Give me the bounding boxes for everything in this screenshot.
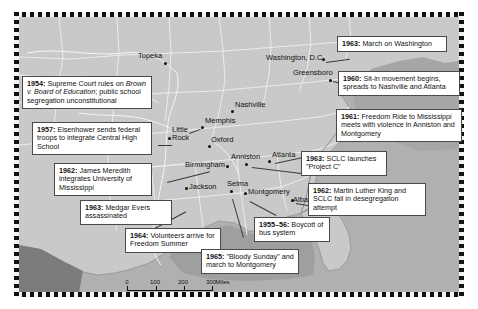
scale-miles-200: 200 [178, 279, 188, 286]
city-dot [231, 110, 234, 113]
callout-march-on-washington-1963: 1963: March on Washington [337, 36, 447, 52]
city-dot [201, 126, 204, 129]
callout-james-meredith-1962: 1962: James Meredith integrates Universi… [54, 163, 152, 196]
city-label: Selma [227, 180, 248, 189]
callout-text: March on Washington [360, 39, 432, 48]
callout-project-c-1963: 1963: SCLC launches "Project C" [301, 151, 387, 176]
callout-bus-boycott-1955-56: 1955–56: Boycott of bus system [254, 217, 330, 242]
city-dot [329, 79, 332, 82]
scale-bar: 0 100 200 300 Miles 0 100 200 300 Kilome… [127, 279, 213, 292]
city-label: Topeka [138, 52, 162, 61]
scale-miles-0: 0 [125, 279, 128, 286]
city-label: Nashville [235, 101, 265, 110]
city-label: Greensboro [293, 69, 333, 78]
callout-freedom-ride-1961: 1961: Freedom Ride to Mississippi meets … [336, 109, 462, 142]
city-dot [244, 192, 247, 195]
city-label: Oxford [211, 136, 234, 145]
city-label: Birmingham [185, 161, 225, 170]
scale-tick [156, 286, 157, 290]
scale-tick [184, 286, 185, 290]
callout-bloody-sunday-1965: 1965: "Bloody Sunday" and march to Montg… [201, 249, 299, 274]
city-label: Anniston [231, 153, 260, 162]
scale-miles-300: 300 [206, 279, 216, 286]
callout-medgar-evers-1963: 1963: Medgar Evers assassinated [80, 200, 172, 225]
city-dot [230, 190, 233, 193]
leader-line-little-rock [158, 145, 172, 146]
callout-brown-v-board-1954: 1954: Supreme Court rules on Brown v. Bo… [22, 76, 152, 109]
callout-albany-movement-1962: 1962: Martin Luther King and SCLC fail i… [308, 183, 426, 216]
city-dot [185, 187, 188, 190]
neatline-bottom [14, 292, 464, 297]
city-dot [164, 62, 167, 65]
callout-little-rock-1957: 1957: Eisenhower sends federal troops to… [32, 122, 152, 155]
city-label: Jackson [189, 183, 217, 192]
neatline-top [14, 12, 464, 17]
city-label: Memphis [205, 117, 235, 126]
city-dot [208, 145, 211, 148]
city-label: Montgomery [248, 188, 290, 197]
civil-rights-map-figure: Topeka Little Rock Memphis Oxford Birmin… [0, 0, 478, 309]
city-dot [226, 165, 229, 168]
callout-year: 1963: [342, 39, 360, 48]
callout-text: Freedom Ride to Mississippi meets with v… [341, 112, 455, 138]
neatline-left [14, 12, 19, 297]
city-label: Little Rock [172, 126, 198, 141]
city-dot [245, 163, 248, 166]
city-dot [268, 160, 271, 163]
scale-miles-unit: Miles [216, 279, 230, 286]
city-label: Washington, D.C. [266, 54, 325, 63]
callout-sit-in-movement-1960: 1960: Sit-in movement begins, spreads to… [338, 71, 460, 96]
scale-bar-miles-labels: 0 100 200 300 Miles [127, 279, 213, 286]
neatline-right [459, 12, 464, 297]
scale-miles-100: 100 [150, 279, 160, 286]
city-dot [168, 137, 171, 140]
